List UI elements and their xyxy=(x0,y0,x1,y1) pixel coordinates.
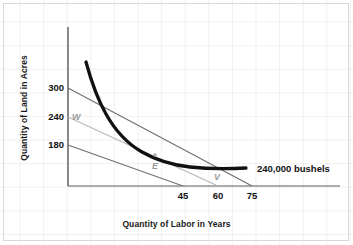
xtick-label-45: 45 xyxy=(170,190,196,201)
xtick-label-75: 75 xyxy=(239,190,265,201)
ytick-label-180: 180 xyxy=(30,139,64,150)
xtick-label-60: 60 xyxy=(205,190,231,201)
point-label-W: W xyxy=(72,112,81,122)
ytick-label-300: 300 xyxy=(30,82,64,93)
y-axis-title: Quantity of Land in Acres xyxy=(19,38,29,178)
ytick-label-240: 240 xyxy=(30,111,64,122)
isoquant-isocost-chart: 300 240 180 45 60 75 W E V 240,000 bushe… xyxy=(0,0,353,245)
x-axis-title: Quantity of Labor in Years xyxy=(0,219,353,229)
point-label-E: E xyxy=(152,161,158,171)
tangency-point-marker xyxy=(153,153,157,157)
isocost-low-line xyxy=(68,145,183,186)
point-label-V: V xyxy=(214,172,220,182)
isoquant-annotation-label: 240,000 bushels xyxy=(257,163,330,174)
plot-area xyxy=(0,0,353,245)
isoquant-curve xyxy=(86,62,246,169)
isocost-high-line xyxy=(68,88,252,186)
